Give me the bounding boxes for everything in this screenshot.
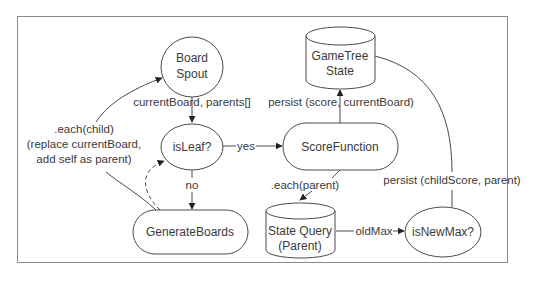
edge-score-to-gametree: persist (score, currentBoard): [268, 90, 414, 123]
edge-label-add-self-as-parent: add self as parent): [36, 153, 131, 165]
edge-statequery-to-newmax: oldMax: [336, 225, 404, 237]
node-is-new-max-label: isNewMax?: [412, 225, 474, 239]
edge-label-persist-childscore: persist (childScore, parent): [383, 174, 521, 186]
edge-newmax-to-gametree: persist (childScore, parent): [375, 56, 521, 207]
edge-label-no: no: [186, 179, 199, 191]
diagram-canvas: currentBoard, parents[] yes no persist (…: [0, 0, 545, 282]
node-is-leaf: isLeaf?: [161, 124, 223, 170]
edge-isleaf-to-score: yes: [223, 140, 282, 152]
edge-label-replace-current-board: (replace currentBoard,: [27, 138, 141, 150]
node-generate-boards: GenerateBoards: [133, 210, 248, 254]
edge-label-persist-score: persist (score, currentBoard): [268, 96, 414, 108]
node-state-query-line1: State Query: [268, 224, 332, 238]
edge-isleaf-to-generate: no: [186, 170, 199, 209]
edge-label-oldmax: oldMax: [355, 225, 392, 237]
node-score-function: ScoreFunction: [283, 123, 398, 170]
node-gametree-state: GameTree State: [306, 27, 375, 89]
edge-label-yes: yes: [237, 140, 255, 152]
node-generate-boards-label: GenerateBoards: [146, 225, 234, 239]
edge-label-each-child: .each(child): [54, 123, 114, 135]
node-is-new-max: isNewMax?: [405, 207, 481, 257]
edge-label-current-board: currentBoard, parents[]: [133, 96, 251, 108]
node-board-spout: Board Spout: [161, 37, 223, 97]
node-gametree-state-line1: GameTree: [312, 49, 369, 63]
node-board-spout-line1: Board: [176, 51, 208, 65]
edge-label-each-parent: .each(parent): [271, 179, 340, 191]
edge-generate-to-isleaf-dashed: [145, 161, 164, 210]
node-state-query: State Query (Parent): [266, 203, 335, 258]
node-state-query-line2: (Parent): [278, 239, 321, 253]
edge-score-to-statequery: .each(parent): [271, 170, 340, 200]
node-gametree-state-line2: State: [326, 64, 354, 78]
node-board-spout-line2: Spout: [176, 67, 208, 81]
node-score-function-label: ScoreFunction: [301, 140, 378, 154]
node-is-leaf-label: isLeaf?: [173, 140, 212, 154]
edge-spout-to-isleaf: currentBoard, parents[]: [133, 96, 251, 122]
